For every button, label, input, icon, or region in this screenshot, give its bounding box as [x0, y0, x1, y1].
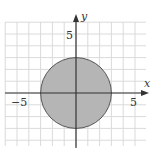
y-axis-label: y [81, 11, 87, 22]
x-axis-label: x [144, 78, 150, 89]
y-tick-label-5: 5 [66, 30, 73, 41]
x-axis-arrow-icon [141, 90, 149, 96]
x-tick-label-neg5: −5 [11, 97, 27, 108]
coordinate-plane [0, 0, 153, 148]
y-axis-arrow-icon [73, 14, 79, 22]
x-tick-label-5: 5 [130, 97, 137, 108]
